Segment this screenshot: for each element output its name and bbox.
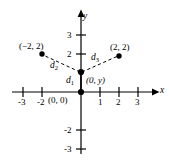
x-tick-label-2: 2 [116,98,121,107]
point-left-dot [39,51,44,56]
coordinate-plane-figure: x y -3 -2 1 2 3 3 2 -2 -3 (−2, 2) (2, 2)… [0,0,169,162]
point-unknown-dot [78,69,84,75]
y-tick-label-neg3: -3 [64,145,72,154]
segment-d3-label: d3 [91,53,99,63]
x-tick-label-neg2: -2 [37,98,45,107]
point-unknown-label: (0, y) [86,76,105,85]
point-right-dot [116,53,121,58]
point-origin-label: (0, 0) [48,96,68,105]
segment-d2-label: d2 [50,61,58,71]
segment-d2-subscript: 2 [55,64,58,71]
point-left-label: (−2, 2) [19,42,44,51]
x-tick-label-3: 3 [135,98,140,107]
y-axis-label: y [83,12,87,22]
x-axis-label: x [160,86,164,96]
segment-d1-label: d1 [66,76,74,86]
x-tick-label-1: 1 [98,98,103,107]
coordinate-axes-drawing [0,0,169,162]
x-tick-label-neg3: -3 [18,98,26,107]
segment-d2-line [43,55,80,72]
segment-d3-line [82,56,118,72]
y-tick-label-3: 3 [67,31,72,40]
point-right-label: (2, 2) [110,43,130,52]
y-tick-label-2: 2 [67,50,72,59]
segment-d3-subscript: 3 [96,56,99,63]
segment-d1-subscript: 1 [71,79,74,86]
x-axis [12,89,160,96]
point-origin-dot [78,89,84,95]
y-tick-label-neg2: -2 [64,126,72,135]
